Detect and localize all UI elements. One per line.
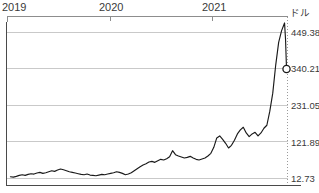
current-value-marker xyxy=(283,65,290,72)
stock-price-chart: 2019 2020 2021 ドル 449.38 340.21 231.05 1… xyxy=(0,0,319,193)
price-line-series xyxy=(10,23,286,177)
gridlines xyxy=(7,33,288,179)
plot-frame xyxy=(7,22,301,186)
plot-area xyxy=(0,0,319,193)
